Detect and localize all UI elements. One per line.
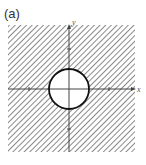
x-axis-label: x (136, 85, 141, 94)
y-axis-label: y (71, 18, 76, 27)
region-diagram: y x (0, 0, 146, 165)
